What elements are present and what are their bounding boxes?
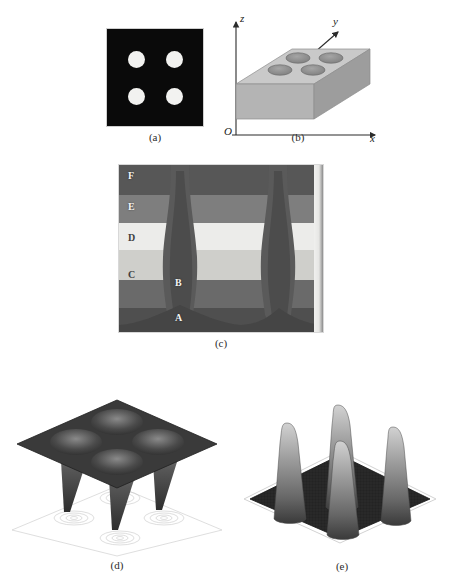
panel-e-caption: (e) — [312, 560, 372, 572]
axis-label-z: z — [240, 12, 244, 24]
axis-label-y: y — [333, 15, 338, 27]
panel-b-slab-schematic: O x y z — [218, 8, 383, 148]
aperture-dot — [166, 88, 183, 105]
aperture-dot — [128, 88, 145, 105]
contour-label-d: D — [128, 232, 136, 243]
contour-label-f: F — [128, 170, 134, 181]
contour-label-a: A — [175, 312, 183, 323]
contour-label-b: B — [175, 277, 182, 288]
panel-c-contour-map: F E D C B A — [119, 165, 323, 332]
panel-a-binary-mask — [107, 29, 203, 126]
panel-e-surface-plot-upward — [238, 395, 443, 558]
peak — [274, 423, 306, 524]
aperture-dot — [166, 51, 183, 68]
contour-bands — [119, 165, 323, 332]
contour-label-c: C — [128, 269, 136, 280]
panel-d-surface-plot-downward — [10, 378, 225, 558]
contour-right-strip — [314, 165, 323, 332]
peak-group — [274, 405, 411, 540]
axis-label-x: x — [370, 132, 375, 144]
peak — [381, 427, 411, 526]
axis-label-origin: O — [224, 125, 232, 137]
contour-label-e: E — [128, 201, 135, 212]
surface-sheet — [17, 400, 217, 488]
panel-c-caption: (c) — [191, 337, 251, 349]
panel-d-caption: (d) — [87, 559, 147, 571]
panel-b-caption: (b) — [268, 131, 328, 143]
panel-a-caption: (a) — [125, 131, 185, 143]
aperture-dot — [128, 51, 145, 68]
